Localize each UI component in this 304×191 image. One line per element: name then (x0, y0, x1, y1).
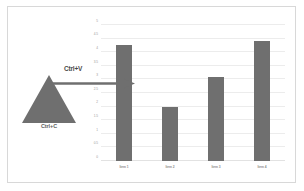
x-axis-tick-label: Item 2 (165, 166, 174, 169)
gridline (101, 24, 285, 25)
x-axis-tick-label: Item 4 (257, 166, 266, 169)
bar (116, 45, 132, 161)
x-axis-tick-label: Item 3 (211, 166, 220, 169)
y-axis-tick-label: 4.5 (94, 34, 98, 37)
y-axis-tick-label: 3.5 (94, 61, 98, 64)
y-axis-tick-label: 4 (96, 47, 98, 50)
bar (162, 107, 178, 161)
bar (208, 77, 224, 161)
x-axis-tick-label: Item 1 (119, 166, 128, 169)
y-axis-tick-label: 1 (96, 129, 98, 132)
y-axis-tick-label: 1.5 (94, 115, 98, 118)
y-axis-tick-label: 0.5 (94, 143, 98, 146)
arrow-right-icon (45, 75, 135, 91)
bar-chart: 00.511.522.533.544.55Item 1Item 2Item 3I… (83, 17, 289, 180)
y-axis-tick-label: 0 (96, 156, 98, 159)
figure-canvas: 00.511.522.533.544.55Item 1Item 2Item 3I… (7, 6, 296, 183)
gridline (101, 38, 285, 39)
y-axis-tick-label: 5 (96, 20, 98, 23)
paste-shortcut-label: Ctrl+V (64, 66, 82, 73)
bar (254, 41, 270, 161)
y-axis-tick-label: 2 (96, 102, 98, 105)
copy-shortcut-label: Ctrl+C (21, 124, 77, 130)
plot-area: 00.511.522.533.544.55Item 1Item 2Item 3I… (101, 25, 285, 161)
